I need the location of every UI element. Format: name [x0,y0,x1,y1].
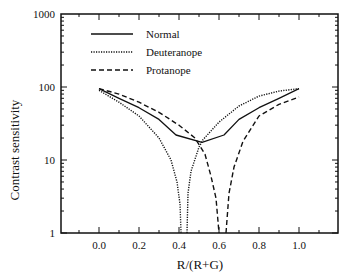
legend-label-normal: Normal [146,28,180,40]
series-deuteranope [99,89,299,233]
chart: 1101001000 0.00.20.40.60.81.0 NormalDeut… [0,0,344,277]
series-normal [99,89,299,143]
legend-label-protanope: Protanope [146,64,191,76]
x-tick-label: 0.0 [92,239,106,251]
series-layer [99,89,299,233]
legend-label-deuteranope: Deuteranope [146,46,202,58]
x-tick-label: 0.8 [252,239,266,251]
x-tick-label: 1.0 [292,239,306,251]
y-axis-label: Contrast sensitivity [7,99,22,200]
x-tick-label: 0.6 [212,239,226,251]
y-tick-label: 10 [44,154,56,166]
y-tick-label: 100 [39,81,56,93]
y-tick-label: 1 [50,227,56,239]
x-tick-label: 0.4 [172,239,186,251]
x-tick-label: 0.2 [132,239,146,251]
chart-svg: 1101001000 0.00.20.40.60.81.0 NormalDeut… [0,0,344,277]
y-tick-label: 1000 [33,8,56,20]
series-protanope [99,89,299,233]
y-axis-ticks: 1101001000 [33,8,338,239]
legend: NormalDeuteranopeProtanope [91,28,202,76]
x-axis-label: R/(R+G) [177,257,223,272]
